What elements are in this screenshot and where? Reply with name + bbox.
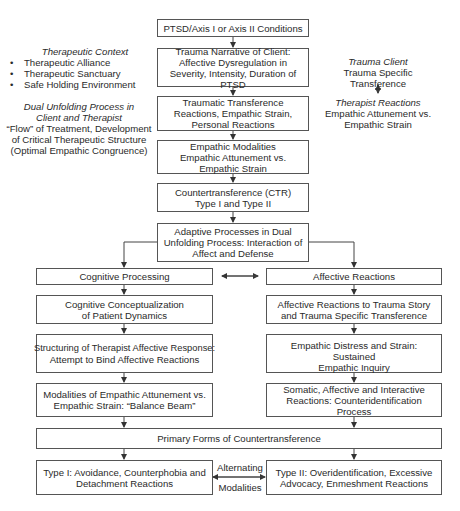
dual-unfolding-body: (Optimal Empathic Congruence) [2, 145, 156, 156]
modalities-label: Modalities [212, 482, 268, 493]
therapeutic-context-list: Therapeutic Alliance Therapeutic Sanctua… [8, 57, 148, 90]
box-text: Affective Reactions to Trauma Story [278, 299, 431, 310]
box-text: Empathic Distress and Strain: Sustained [269, 340, 439, 362]
box-text: Reactions, Empathic Strain, [174, 108, 292, 119]
trauma-client-note: Trauma Client Trauma Specific Transferen… [318, 56, 438, 89]
therapist-reactions-text: Empathic Strain [318, 119, 438, 130]
box-text: Affective Dysregulation in [179, 57, 287, 68]
box-adaptive-processes: Adaptive Processes in Dual Unfolding Pro… [157, 223, 309, 262]
box-text: Type II: Overidentification, Excessive [276, 467, 433, 478]
box-empathic-modalities: Empathic Modalities Empathic Attunement … [157, 140, 309, 174]
box-cognitive-processing: Cognitive Processing [36, 268, 213, 285]
box-somatic-reactions: Somatic, Affective and Interactive React… [266, 383, 442, 417]
box-text: Cognitive Conceptualization [65, 299, 184, 310]
box-text: Somatic, Affective and Interactive [283, 384, 425, 395]
box-text: Modalities of Empathic Attunement vs. [43, 389, 206, 400]
box-empathic-distress: Empathic Distress and Strain: Sustained … [266, 334, 442, 373]
box-affective-reactions: Affective Reactions [266, 268, 442, 285]
box-type-two: Type II: Overidentification, Excessive A… [266, 460, 442, 495]
alternating-label: Alternating [212, 462, 268, 473]
box-text: Attempt to Bind Affective Reactions [50, 354, 200, 365]
dual-unfolding-body: “Flow” of Treatment, Development [2, 123, 156, 134]
box-text: Severity, Intensity, Duration of PTSD [160, 68, 306, 90]
box-countertransference: Countertransference (CTR) Type I and Typ… [157, 183, 309, 212]
box-text: Empathic Strain: “Balance Beam” [54, 400, 196, 411]
therapist-reactions-title: Therapist Reactions [318, 97, 438, 108]
box-text: Type I: Avoidance, Counterphobia and [43, 467, 206, 478]
box-text: PTSD/Axis I or Axis II Conditions [163, 23, 302, 34]
box-text: Empathic Strain [199, 163, 267, 174]
box-text: Empathic Modalities [190, 141, 276, 152]
therapist-reactions-note: Therapist Reactions Empathic Attunement … [318, 97, 438, 130]
box-modalities-balance-beam: Modalities of Empathic Attunement vs. Em… [36, 383, 213, 417]
box-traumatic-transference: Traumatic Transference Reactions, Empath… [157, 96, 309, 131]
box-ptsd-conditions: PTSD/Axis I or Axis II Conditions [157, 19, 309, 37]
box-text: Advocacy, Enmeshment Reactions [280, 478, 428, 489]
therapeutic-context-title: Therapeutic Context [8, 46, 148, 57]
dual-unfolding-title: Client and Therapist [2, 112, 156, 123]
box-text: Detachment Reactions [76, 478, 173, 489]
box-text: Type I and Type II [195, 198, 271, 209]
dual-unfolding-title: Dual Unfolding Process in [2, 101, 156, 112]
dual-unfolding-body: of Critical Therapeutic Structure [2, 134, 156, 145]
box-text: Unfolding Process: Interaction of [164, 237, 303, 248]
trauma-client-text: Transference [318, 78, 438, 89]
box-trauma-narrative: Trauma Narrative of Client: Affective Dy… [157, 48, 309, 87]
box-text: Affective Reactions [313, 271, 395, 282]
box-type-one: Type I: Avoidance, Counterphobia and Det… [36, 460, 213, 495]
box-text: Reactions: Counteridentification [286, 395, 421, 406]
dual-unfolding-note: Dual Unfolding Process in Client and The… [2, 101, 156, 156]
box-text: Personal Reactions [191, 119, 274, 130]
therapeutic-context-note: Therapeutic Context Therapeutic Alliance… [8, 46, 148, 90]
box-text: Empathic Attunement vs. [180, 152, 286, 163]
box-text: Trauma Narrative of Client: [176, 46, 291, 57]
box-text: Empathic Inquiry [318, 362, 389, 373]
box-affective-reactions-trauma: Affective Reactions to Trauma Story and … [266, 295, 442, 324]
box-text: Traumatic Transference [183, 97, 284, 108]
therapist-reactions-text: Empathic Attunement vs. [318, 108, 438, 119]
box-text: Process [337, 406, 372, 417]
box-text: Affect and Defense [192, 248, 273, 259]
box-structuring-affective-response: Structuring of Therapist Affective Respo… [36, 334, 213, 373]
list-item: Therapeutic Alliance [8, 57, 148, 68]
box-text: Cognitive Processing [79, 271, 169, 282]
box-text: Countertransference (CTR) [175, 187, 291, 198]
box-primary-forms: Primary Forms of Countertransference [36, 428, 442, 449]
box-text: Primary Forms of Countertransference [157, 433, 321, 444]
trauma-client-text: Trauma Specific [318, 67, 438, 78]
box-cognitive-conceptualization: Cognitive Conceptualization of Patient D… [36, 295, 213, 324]
trauma-client-title: Trauma Client [318, 56, 438, 67]
box-text: and Trauma Specific Transference [281, 310, 427, 321]
box-text: of Patient Dynamics [82, 310, 167, 321]
list-item: Safe Holding Environment [8, 79, 148, 90]
box-text: Structuring of Therapist Affective Respo… [34, 343, 215, 354]
box-text: Adaptive Processes in Dual [174, 226, 291, 237]
list-item: Therapeutic Sanctuary [8, 68, 148, 79]
